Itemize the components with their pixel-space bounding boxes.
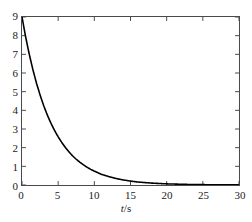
x-axis-tick-label: 5 xyxy=(55,190,61,201)
x-axis-tick-label: 30 xyxy=(235,190,246,201)
plot-svg xyxy=(22,17,239,185)
x-axis-tick-label: 10 xyxy=(89,190,100,201)
y-axis-tick-label: 1 xyxy=(13,162,19,173)
data-series-line xyxy=(22,17,239,185)
y-axis-tick-label: 2 xyxy=(13,143,19,154)
x-axis-tick-label: 25 xyxy=(198,190,209,201)
plot-area xyxy=(21,16,240,186)
chart-figure: 0123456789 051015202530 t/s xyxy=(0,0,252,222)
x-axis-tick-label: 15 xyxy=(125,190,136,201)
y-axis-tick-marks xyxy=(22,17,239,185)
y-axis-tick-label: 4 xyxy=(13,105,19,116)
x-axis-tick-label: 0 xyxy=(18,190,24,201)
y-axis-tick-labels: 0123456789 xyxy=(0,0,18,222)
y-axis-tick-label: 5 xyxy=(13,86,19,97)
y-axis-tick-label: 6 xyxy=(13,67,19,78)
x-axis-title: t/s xyxy=(0,203,252,214)
y-axis-tick-label: 8 xyxy=(13,29,19,40)
y-axis-tick-label: 3 xyxy=(13,124,19,135)
x-axis-title-unit: /s xyxy=(124,202,131,214)
x-axis-tick-label: 20 xyxy=(162,190,173,201)
y-axis-tick-label: 9 xyxy=(13,11,19,22)
x-axis-tick-marks xyxy=(22,17,239,185)
y-axis-tick-label: 7 xyxy=(13,48,19,59)
